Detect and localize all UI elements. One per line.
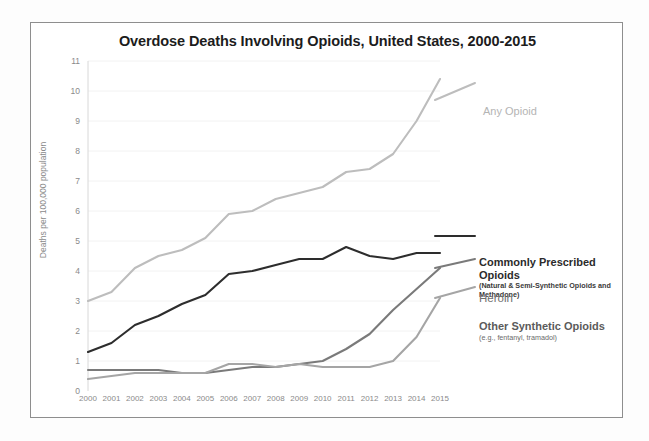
series-label-commonly-prescribed-text: Commonly Prescribed Opioids	[479, 256, 622, 281]
series-label-heroin-text: Heroin	[479, 292, 513, 305]
y-tick-6: 6	[58, 206, 80, 216]
screenshot-page: Overdose Deaths Involving Opioids, Unite…	[0, 0, 649, 441]
y-tick-9: 9	[58, 116, 80, 126]
series-label-heroin: Heroin	[479, 292, 513, 305]
series-line-commonly-prescribed-opioids	[88, 247, 440, 352]
y-tick-10: 10	[58, 86, 80, 96]
y-tick-5: 5	[58, 236, 80, 246]
y-tick-11: 11	[58, 56, 80, 66]
y-tick-1: 1	[58, 356, 80, 366]
y-tick-8: 8	[58, 146, 80, 156]
y-tick-4: 4	[58, 266, 80, 276]
series-label-any-opioid: Any Opioid	[483, 105, 537, 118]
series-lines	[88, 79, 440, 379]
leader-line-2	[435, 259, 475, 268]
y-tick-2: 2	[58, 326, 80, 336]
leader-line-3	[435, 287, 475, 298]
chart-frame: Overdose Deaths Involving Opioids, Unite…	[30, 22, 623, 418]
x-tick-2015: 2015	[422, 394, 458, 403]
chart-plot	[31, 23, 624, 419]
series-label-other-synthetic-text: Other Synthetic Opioids	[479, 320, 605, 333]
y-tick-7: 7	[58, 176, 80, 186]
series-label-other-synthetic: Other Synthetic Opioids (e.g., fentanyl,…	[479, 320, 605, 342]
leader-line-0	[435, 83, 475, 100]
leader-lines	[435, 83, 475, 298]
series-line-heroin	[88, 268, 440, 373]
series-label-any-opioid-text: Any Opioid	[483, 105, 537, 118]
series-label-other-synthetic-sub: (e.g., fentanyl, tramadol)	[479, 334, 605, 342]
y-tick-3: 3	[58, 296, 80, 306]
